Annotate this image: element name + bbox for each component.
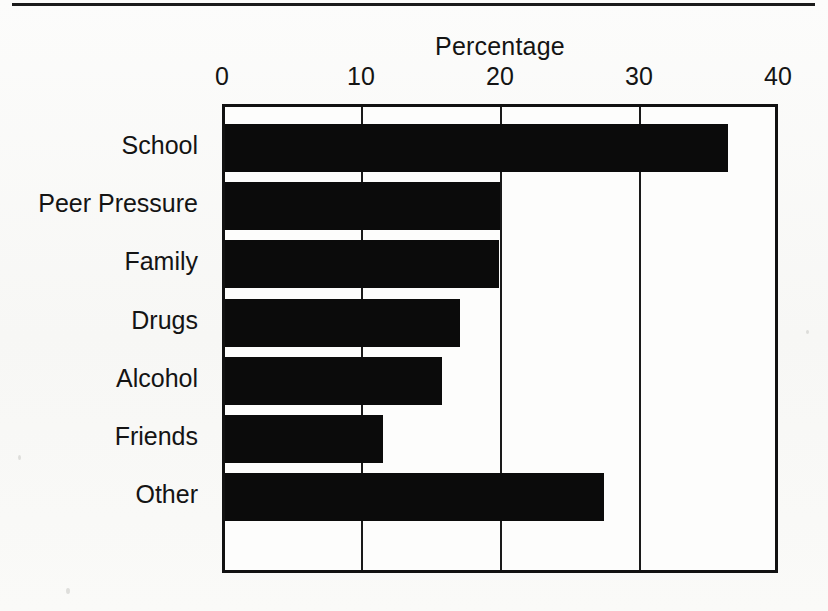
y-axis-category-labels: SchoolPeer PressureFamilyDrugsAlcoholFri… [0, 104, 212, 573]
top-horizontal-rule [12, 3, 815, 6]
category-label-alcohol: Alcohol [0, 364, 198, 392]
category-label-school: School [0, 131, 198, 159]
scan-speck [18, 455, 21, 460]
plot-frame [222, 104, 778, 573]
x-tick-label-40: 40 [738, 62, 818, 90]
category-label-friends: Friends [0, 422, 198, 450]
category-label-family: Family [0, 247, 198, 275]
category-label-other: Other [0, 480, 198, 508]
bars-layer [225, 107, 775, 570]
bar-drugs [225, 299, 460, 347]
x-tick-label-20: 20 [460, 62, 540, 90]
bar-friends [225, 415, 383, 463]
x-tick-label-30: 30 [599, 62, 679, 90]
bar-peer-pressure [225, 182, 500, 230]
bar-other [225, 473, 604, 521]
bar-alcohol [225, 357, 442, 405]
x-axis-tick-labels: 010203040 [0, 62, 828, 92]
scan-speck [806, 330, 809, 334]
chart-title: Percentage [222, 33, 778, 59]
x-tick-label-0: 0 [182, 62, 262, 90]
bar-school [225, 124, 728, 172]
category-label-peer-pressure: Peer Pressure [0, 189, 198, 217]
category-label-drugs: Drugs [0, 306, 198, 334]
bar-family [225, 240, 499, 288]
figure-canvas: Percentage 010203040 SchoolPeer Pressure… [0, 0, 828, 611]
scan-speck [66, 588, 70, 594]
x-tick-label-10: 10 [321, 62, 401, 90]
plot-area [225, 107, 775, 570]
